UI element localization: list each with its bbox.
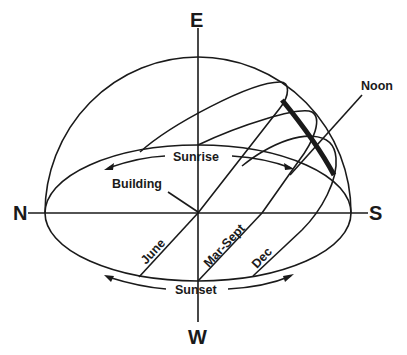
- sun-path-diagram: E W N S Sunrise Sunset Building Noon Jun…: [0, 0, 407, 355]
- mar-sept-label: Mar-Sept: [201, 221, 248, 270]
- dec-label: Dec: [249, 245, 275, 271]
- noon-label: Noon: [361, 79, 393, 93]
- sunset-label: Sunset: [175, 283, 218, 297]
- building-leader: [168, 192, 198, 212]
- east-label: E: [190, 9, 203, 31]
- building-label: Building: [112, 177, 162, 191]
- south-label: S: [369, 202, 382, 224]
- sunrise-label: Sunrise: [173, 150, 219, 164]
- west-label: W: [188, 326, 207, 348]
- north-label: N: [13, 202, 27, 224]
